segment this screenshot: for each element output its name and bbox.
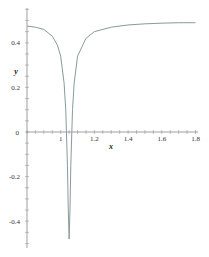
x-tick-label: 1 — [59, 135, 63, 143]
origin-label: 0 — [16, 129, 20, 137]
y-axis-label: y — [13, 67, 18, 76]
y-ticks: 0.40.2-0.2-0.4 — [9, 9, 29, 243]
y-tick-label: 0.2 — [11, 84, 20, 92]
x-tick-label: 1.4 — [124, 135, 133, 143]
x-tick-label: 1.6 — [157, 135, 166, 143]
line-chart: 0.40.2-0.2-0.4 11.21.41.61.8 0 x y — [0, 0, 209, 257]
y-tick-label: -0.2 — [9, 173, 21, 181]
x-axis-label: x — [108, 142, 113, 151]
x-tick-label: 1.2 — [90, 135, 99, 143]
y-tick-label: -0.4 — [9, 218, 21, 226]
x-tick-label: 1.8 — [191, 135, 200, 143]
y-tick-label: 0.4 — [11, 39, 20, 47]
